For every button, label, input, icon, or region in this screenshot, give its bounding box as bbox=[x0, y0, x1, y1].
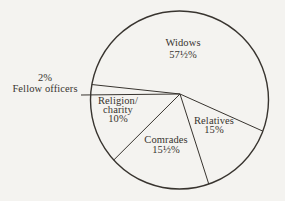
slice-label-fellow-officers: 2% Fellow officers bbox=[12, 72, 77, 94]
slice-boundary-line bbox=[92, 85, 180, 94]
slice-label-relatives-value: 15% bbox=[194, 125, 234, 134]
pie-chart-canvas bbox=[0, 0, 285, 201]
slice-label-fellow-officers-name: Fellow officers bbox=[12, 83, 77, 94]
slice-label-widows-value: 57½% bbox=[165, 49, 200, 61]
slice-label-fellow-officers-value: 2% bbox=[12, 72, 77, 83]
slice-label-widows: Widows 57½% bbox=[165, 37, 200, 61]
slice-label-religion-charity: Religion/ charity 10% bbox=[98, 96, 138, 123]
slice-label-comrades: Comrades 15½% bbox=[144, 135, 187, 155]
slice-label-comrades-value: 15½% bbox=[144, 145, 187, 155]
slice-label-widows-name: Widows bbox=[165, 37, 200, 49]
pie-chart-figure: Widows 57½% 2% Fellow officers Religion/… bbox=[0, 0, 285, 201]
slice-label-relatives: Relatives 15% bbox=[194, 116, 234, 134]
slice-label-religion-charity-value: 10% bbox=[98, 114, 138, 123]
